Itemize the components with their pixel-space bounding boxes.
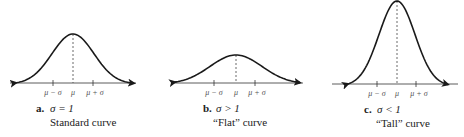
tick-label-mu: μ: [394, 89, 399, 98]
caption-condition: σ > 1: [216, 102, 240, 114]
caption-condition: σ < 1: [377, 103, 401, 115]
normal-curves-figure: μ − σ μ μ + σ a. σ = 1 Standard curve μ …: [0, 0, 464, 137]
tick-label-mu: μ: [233, 88, 238, 97]
tick-label-plus-sigma: μ + σ: [85, 88, 104, 97]
tick-label-minus-sigma: μ − σ: [204, 88, 223, 97]
caption-letter: a.: [36, 102, 45, 114]
tick-label-plus-sigma: μ + σ: [247, 88, 266, 97]
tick-label-plus-sigma: μ + σ: [409, 89, 428, 98]
caption-name: “Tall” curve: [376, 117, 430, 129]
tick-label-minus-sigma: μ − σ: [43, 88, 62, 97]
panel-b: μ − σ μ μ + σ b. σ > 1 “Flat” curve: [172, 55, 303, 128]
panel-a: μ − σ μ μ + σ a. σ = 1 Standard curve: [10, 34, 136, 128]
tick-label-minus-sigma: μ − σ: [367, 89, 386, 98]
bell-curve: [348, 1, 448, 84]
caption-name: “Flat” curve: [213, 116, 267, 128]
caption-letter: c.: [364, 103, 372, 115]
caption-letter: b.: [203, 102, 212, 114]
panel-c: μ − σ μ μ + σ c. σ < 1 “Tall” curve: [332, 1, 458, 129]
tick-label-mu: μ: [70, 88, 75, 97]
caption-condition: σ = 1: [50, 102, 74, 114]
bell-curve: [16, 34, 134, 83]
bell-curve: [175, 55, 300, 83]
caption-name: Standard curve: [50, 116, 116, 128]
